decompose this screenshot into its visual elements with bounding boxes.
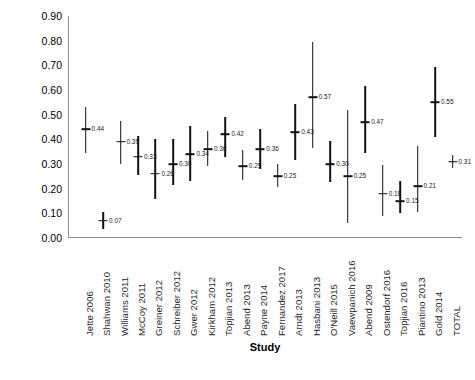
x-axis-tick-label: Gwer 2012 [187, 240, 200, 336]
error-bar [364, 86, 366, 153]
x-axis-tick-label: Fernandez 2017 [275, 240, 288, 336]
x-axis-title: Study [68, 341, 462, 353]
error-bar [329, 141, 331, 183]
x-axis-tick-label: Hasbani 2013 [310, 240, 323, 336]
point-value-label: 0.25 [354, 173, 366, 179]
point-value-label: 0.55 [441, 99, 453, 105]
x-axis-tick-label: Vaewpanich 2016 [345, 240, 358, 336]
point-estimate-marker [134, 156, 143, 158]
x-axis-tick-label: Gold 2014 [432, 240, 445, 336]
x-axis-tick-label: Schreiber 2012 [170, 240, 183, 336]
point-estimate-marker [378, 193, 387, 195]
x-axis-tick-label: Topjian 2016 [397, 240, 410, 336]
y-axis-tick-label: 0.90 [26, 11, 62, 21]
point-estimate-marker [448, 161, 457, 163]
point-estimate-marker [116, 141, 125, 143]
x-axis-tick-label: Williams 2011 [118, 240, 131, 336]
x-axis-tick-label: Greiner 2012 [152, 240, 165, 336]
figure-caption [8, 371, 468, 380]
point-estimate-marker [256, 148, 265, 150]
point-estimate-marker [168, 163, 177, 165]
plot-area: 0.440.070.390.330.260.300.340.360.420.29… [68, 16, 462, 238]
point-estimate-marker [308, 97, 317, 99]
point-estimate-marker [396, 200, 405, 202]
forest-plot-figure: % with Seizures 0.100.200.300.400.500.60… [0, 0, 475, 380]
x-axis-tick-label: Topjian 2013 [222, 240, 235, 336]
x-axis-tick-label: Jette 2006 [83, 240, 96, 336]
point-estimate-marker [81, 129, 90, 131]
x-axis-tick-label: O'Neill 2015 [327, 240, 340, 336]
y-axis-tick-label: 0.00 [26, 233, 62, 243]
point-value-label: 0.36 [266, 146, 278, 152]
x-axis-tick-label: McCoy 2011 [135, 240, 148, 336]
y-axis-tick-label: 0.70 [26, 60, 62, 70]
x-axis-tick-label: Abend 2013 [240, 240, 253, 336]
point-value-label: 0.31 [459, 158, 471, 164]
x-axis-tick-labels: Jette 2006Shahwan 2010Williams 2011McCoy… [68, 240, 462, 338]
point-estimate-marker [273, 176, 282, 178]
point-value-label: 0.07 [109, 218, 121, 224]
x-axis-tick-label: TOTAL [450, 240, 463, 336]
point-estimate-marker [361, 121, 370, 123]
point-estimate-marker [186, 153, 195, 155]
point-value-label: 0.57 [319, 94, 331, 100]
y-axis-tick-label: 0.20 [26, 184, 62, 194]
point-estimate-marker [431, 102, 440, 104]
error-bar [399, 181, 401, 213]
point-estimate-marker [221, 134, 230, 136]
point-value-label: 0.21 [424, 183, 436, 189]
x-axis-tick-label: Kirkham 2012 [205, 240, 218, 336]
x-axis-tick-label: Shahwan 2010 [100, 240, 113, 336]
point-estimate-marker [291, 131, 300, 133]
point-value-label: 0.47 [371, 119, 383, 125]
error-bar [312, 42, 314, 148]
point-estimate-marker [326, 163, 335, 165]
x-axis-tick-label: Arndt 2013 [292, 240, 305, 336]
error-bar [155, 139, 157, 198]
y-axis-tick-label: 0.40 [26, 134, 62, 144]
x-axis-tick-label: Payne 2014 [257, 240, 270, 336]
error-bar [417, 146, 419, 213]
x-axis-tick-label: Ostendorf 2016 [380, 240, 393, 336]
point-estimate-marker [413, 185, 422, 187]
point-estimate-marker [343, 176, 352, 178]
error-bar [172, 139, 174, 185]
point-estimate-marker [203, 148, 212, 150]
point-estimate-marker [151, 173, 160, 175]
y-axis-tick-label: 0.10 [26, 208, 62, 218]
y-axis-tick-label: 0.80 [26, 36, 62, 46]
error-bar [382, 165, 384, 216]
point-estimate-marker [238, 166, 247, 168]
x-axis-tick-label: Piantino 2013 [415, 240, 428, 336]
error-bar [225, 117, 227, 156]
point-estimate-marker [99, 220, 108, 222]
point-value-label: 0.25 [284, 173, 296, 179]
point-value-label: 0.44 [92, 126, 104, 132]
y-axis-tick-label: 0.30 [26, 159, 62, 169]
y-axis-tick-label: 0.60 [26, 85, 62, 95]
error-bar [347, 110, 349, 223]
y-axis-tick-label: 0.50 [26, 110, 62, 120]
x-axis-tick-label: Abend 2009 [362, 240, 375, 336]
point-value-label: 0.42 [231, 131, 243, 137]
